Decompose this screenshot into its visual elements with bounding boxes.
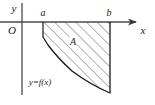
curve-equation-label: y=f(x) <box>28 77 52 87</box>
upper-limit-label: b <box>107 7 112 18</box>
lower-limit-label: a <box>41 7 46 18</box>
x-axis-label: x <box>140 24 146 36</box>
area-label: A <box>69 36 77 47</box>
origin-label: O <box>8 24 16 36</box>
y-axis-label: y <box>11 2 17 14</box>
area-under-curve-diagram: y x O a b A y=f(x) <box>0 0 155 105</box>
figure-container: y x O a b A y=f(x) <box>0 0 155 105</box>
